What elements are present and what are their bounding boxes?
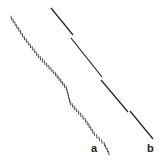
line-segment — [101, 80, 128, 112]
hatch-tick — [42, 58, 43, 62]
hatch-tick — [109, 151, 110, 155]
hatch-tick — [106, 145, 107, 149]
hatch-tick — [85, 118, 86, 122]
figure-canvas: a b — [0, 0, 165, 164]
hatch-tick — [51, 67, 52, 71]
hatch-tick — [94, 132, 95, 136]
hatch-tick — [90, 126, 91, 130]
hatch-tick — [64, 83, 65, 87]
panel-label-b: b — [147, 142, 154, 154]
hatch-tick — [44, 61, 45, 65]
line-segment — [130, 111, 153, 139]
hatch-tick — [32, 46, 33, 50]
hatch-tick — [18, 27, 19, 31]
hatch-tick — [34, 49, 35, 53]
hatch-tick — [76, 108, 77, 112]
hatch-tick — [107, 148, 108, 152]
hatch-tick — [92, 129, 93, 133]
hatch-tick — [74, 105, 75, 109]
hatch-tick — [13, 19, 14, 23]
hatch-tick — [81, 113, 82, 117]
hatch-tick — [97, 134, 98, 138]
hatch-tick — [87, 121, 88, 125]
hatch-tick — [83, 115, 84, 119]
trace-a-hatched-line — [11, 16, 109, 155]
hatch-tick — [11, 16, 12, 20]
hatch-tick — [49, 65, 50, 69]
hatch-tick — [99, 137, 100, 141]
hatch-tick — [53, 70, 54, 74]
hatch-tick — [72, 103, 73, 107]
hatch-tick — [24, 36, 25, 40]
hatch-tick — [55, 72, 56, 76]
hatch-tick — [62, 81, 63, 85]
hatch-tick — [26, 38, 27, 42]
hatch-tick — [38, 54, 39, 58]
hatch-tick — [104, 142, 105, 146]
hatch-tick — [40, 56, 41, 60]
hatch-tick — [17, 24, 18, 28]
hatch-tick — [20, 30, 21, 34]
hatch-tick — [15, 22, 16, 26]
hatch-tick — [47, 63, 48, 67]
line-segment — [71, 38, 102, 77]
hatch-tick — [78, 110, 79, 114]
hatch-tick — [30, 44, 31, 48]
hatch-tick — [61, 79, 62, 83]
trace-b-segmented-line — [51, 8, 153, 139]
line-segment — [51, 8, 73, 35]
hatch-tick — [36, 51, 37, 55]
hatch-tick — [102, 139, 103, 143]
hatch-tick — [59, 76, 60, 80]
hatch-tick — [57, 74, 58, 78]
panel-label-a: a — [91, 142, 98, 154]
hatch-tick — [28, 41, 29, 45]
hatch-tick — [22, 33, 23, 37]
hatch-tick — [89, 123, 90, 127]
hatch-tick — [70, 101, 71, 105]
